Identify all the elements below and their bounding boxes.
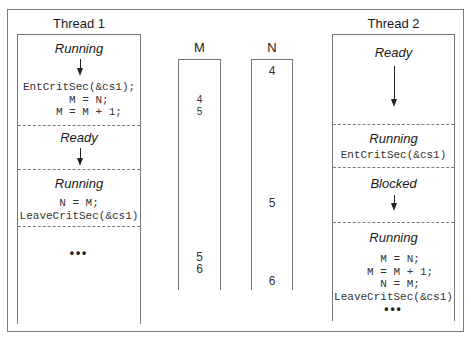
thread2-divider-1 [333, 124, 454, 125]
thread2-code-1: EntCritSec(&cs1) [333, 149, 454, 162]
thread2-timeline: Ready Running EntCritSec(&cs1) Blocked R… [332, 34, 455, 321]
thread1-divider-1 [18, 125, 140, 126]
m-value: 6 [179, 262, 220, 276]
thread1-title: Thread 1 [17, 16, 141, 31]
thread1-timeline: Running EntCritSec(&cs1); M = N; M = M +… [17, 34, 141, 324]
thread2-code-2: M = N; M = M + 1; N = M; LeaveCritSec(&c… [333, 253, 454, 303]
thread1-state-running-1: Running [18, 41, 140, 56]
thread2-state-running-1: Running [333, 131, 454, 146]
thread1-state-running-2: Running [18, 176, 140, 191]
thread2-divider-3 [333, 222, 454, 223]
thread1-code-2: N = M; LeaveCritSec(&cs1) [18, 197, 140, 222]
thread2-state-blocked: Blocked [333, 176, 454, 191]
thread2-state-ready: Ready [333, 45, 454, 60]
thread2-state-running-2: Running [333, 230, 454, 245]
variable-m-column: 4 5 5 6 [178, 59, 221, 290]
thread1-state-ready: Ready [18, 130, 140, 145]
n-value: 5 [252, 196, 292, 210]
variable-n-column: 4 5 6 [251, 59, 293, 290]
thread1-code-1: EntCritSec(&cs1); M = N; M = M + 1; [18, 81, 140, 119]
thread2-divider-2 [333, 167, 454, 168]
thread1-ellipsis: ••• [18, 246, 140, 260]
n-value: 4 [252, 64, 292, 78]
thread2-ellipsis: ••• [333, 302, 454, 316]
m-value: 5 [179, 106, 220, 117]
n-value: 6 [252, 274, 292, 288]
thread2-title: Thread 2 [332, 16, 455, 31]
thread1-divider-3 [18, 226, 140, 227]
variable-n-label: N [251, 40, 293, 55]
thread1-divider-2 [18, 169, 140, 170]
m-value: 4 [179, 94, 220, 105]
variable-m-label: M [178, 40, 221, 55]
